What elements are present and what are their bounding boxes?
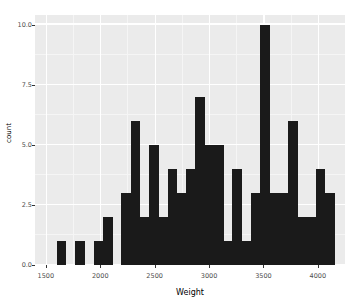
y-tick-mark — [32, 85, 35, 86]
y-tick-label: 7.5 — [12, 81, 32, 89]
x-tick-label: 4000 — [298, 272, 338, 280]
histogram-bar — [94, 241, 104, 265]
histogram-bar — [168, 169, 178, 265]
histogram-bar — [232, 169, 242, 265]
histogram-plot: count 0.02.55.07.510.0 15002000250030003… — [0, 0, 355, 307]
y-axis-title-label: count — [5, 123, 13, 143]
y-tick-label: 10.0 — [12, 21, 32, 29]
histogram-bar — [269, 193, 279, 265]
x-axis-title: Weight — [35, 288, 345, 297]
histogram-bar — [260, 25, 270, 265]
histogram-bar — [177, 193, 187, 265]
histogram-bar — [288, 121, 298, 265]
x-tick-mark — [155, 265, 156, 268]
x-tick-label: 3500 — [243, 272, 283, 280]
histogram-bar — [195, 97, 205, 265]
y-tick-label: 5.0 — [12, 141, 32, 149]
gridline-major-horizontal — [35, 144, 345, 145]
y-tick-label: 2.5 — [12, 201, 32, 209]
histogram-bar — [325, 193, 335, 265]
histogram-bar — [306, 217, 316, 265]
plot-panel — [35, 15, 345, 265]
histogram-bar — [205, 145, 215, 265]
x-tick-mark — [209, 265, 210, 268]
histogram-bar — [223, 241, 233, 265]
y-tick-label: 0.0 — [12, 261, 32, 269]
gridline-minor-horizontal — [35, 54, 345, 55]
histogram-bar — [214, 145, 224, 265]
x-tick-mark — [263, 265, 264, 268]
gridline-major-vertical — [100, 15, 101, 265]
histogram-bar — [316, 169, 326, 265]
histogram-bar — [140, 217, 150, 265]
gridline-minor-horizontal — [35, 114, 345, 115]
histogram-bar — [103, 217, 113, 265]
histogram-bar — [158, 217, 168, 265]
y-tick-mark — [32, 205, 35, 206]
x-tick-mark — [318, 265, 319, 268]
histogram-bar — [131, 121, 141, 265]
histogram-bar — [186, 169, 196, 265]
y-axis-title: count — [0, 0, 18, 265]
x-tick-mark — [46, 265, 47, 268]
gridline-major-vertical — [46, 15, 47, 265]
histogram-bar — [279, 193, 289, 265]
x-tick-label: 3000 — [189, 272, 229, 280]
histogram-bar — [75, 241, 85, 265]
histogram-bar — [242, 241, 252, 265]
y-tick-mark — [32, 145, 35, 146]
histogram-bar — [297, 217, 307, 265]
y-tick-mark — [32, 265, 35, 266]
histogram-bar — [121, 193, 131, 265]
histogram-bar — [251, 193, 261, 265]
x-tick-label: 2000 — [80, 272, 120, 280]
histogram-bar — [149, 145, 159, 265]
y-tick-mark — [32, 25, 35, 26]
histogram-bar — [57, 241, 67, 265]
gridline-minor-vertical — [73, 15, 74, 265]
x-tick-mark — [100, 265, 101, 268]
x-tick-label: 2500 — [135, 272, 175, 280]
gridline-major-horizontal — [35, 84, 345, 85]
gridline-major-horizontal — [35, 23, 345, 24]
x-tick-label: 1500 — [26, 272, 66, 280]
